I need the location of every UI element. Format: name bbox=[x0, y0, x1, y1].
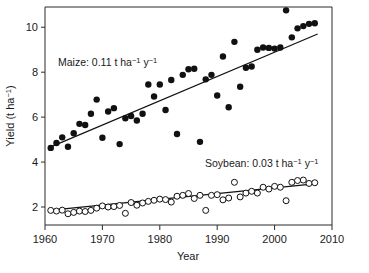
soybean-point bbox=[53, 208, 59, 214]
soybean-point bbox=[122, 210, 128, 216]
soybean-point bbox=[243, 190, 249, 196]
y-tick-label: 4 bbox=[32, 156, 38, 168]
soybean-point bbox=[254, 190, 260, 196]
soybean-point bbox=[306, 180, 312, 186]
maize-point bbox=[231, 39, 237, 45]
soybean-point bbox=[174, 193, 180, 199]
maize-point bbox=[208, 72, 214, 78]
soybean-point bbox=[88, 207, 94, 213]
x-axis-title: Year bbox=[177, 250, 200, 262]
yield-trend-figure: 246810 196019701980199020002010 Maize: 0… bbox=[0, 0, 369, 273]
maize-point bbox=[93, 96, 99, 102]
maize-point bbox=[312, 20, 318, 26]
x-tick-label: 1970 bbox=[90, 233, 114, 245]
maize-point bbox=[71, 130, 77, 136]
soybean-point bbox=[111, 204, 117, 210]
maize-point bbox=[191, 66, 197, 72]
soybean-point bbox=[140, 200, 146, 206]
maize-point bbox=[151, 93, 157, 99]
maize-point bbox=[260, 44, 266, 50]
maize-annotation-label: Maize: 0.11 t ha−1 y−1 bbox=[58, 56, 157, 68]
soybean-point bbox=[283, 198, 289, 204]
maize-point bbox=[134, 117, 140, 123]
y-tick-label: 6 bbox=[32, 111, 38, 123]
soybean-point bbox=[117, 202, 123, 208]
x-tick-label: 1990 bbox=[205, 233, 229, 245]
maize-point bbox=[254, 47, 260, 53]
maize-point bbox=[122, 115, 128, 121]
soybean-point bbox=[191, 195, 197, 201]
soybean-point bbox=[151, 197, 157, 203]
soybean-point bbox=[128, 200, 134, 206]
soybean-point bbox=[59, 207, 65, 213]
maize-point bbox=[294, 25, 300, 31]
soybean-point bbox=[272, 183, 278, 189]
soybean-point bbox=[99, 203, 105, 209]
maize-point bbox=[197, 139, 203, 145]
soybean-point bbox=[168, 199, 174, 205]
soybean-point bbox=[163, 197, 169, 203]
maize-point bbox=[76, 121, 82, 127]
maize-point bbox=[174, 131, 180, 137]
maize-point bbox=[180, 72, 186, 78]
maize-point bbox=[157, 81, 163, 87]
soybean-point bbox=[76, 208, 82, 214]
maize-point bbox=[203, 76, 209, 82]
soybean-point bbox=[312, 180, 318, 186]
maize-point bbox=[271, 45, 277, 51]
y-tick-label: 10 bbox=[26, 21, 38, 33]
maize-point bbox=[145, 81, 151, 87]
maize-point bbox=[300, 23, 306, 29]
soybean-point bbox=[226, 195, 232, 201]
maize-point bbox=[306, 21, 312, 27]
maize-point bbox=[225, 104, 231, 110]
soybean-point bbox=[266, 186, 272, 192]
maize-point bbox=[248, 63, 254, 69]
maize-point bbox=[266, 45, 272, 51]
maize-point bbox=[116, 141, 122, 147]
maize-point bbox=[289, 34, 295, 40]
soybean-point bbox=[220, 197, 226, 203]
x-tick-label: 2000 bbox=[262, 233, 286, 245]
soybean-point bbox=[186, 191, 192, 197]
maize-point bbox=[111, 105, 117, 111]
soybean-point bbox=[277, 184, 283, 190]
soybean-point bbox=[180, 192, 186, 198]
soybean-point bbox=[289, 179, 295, 185]
maize-point bbox=[243, 64, 249, 70]
soybean-point bbox=[260, 184, 266, 190]
maize-point bbox=[277, 44, 283, 50]
maize-point bbox=[162, 107, 168, 113]
maize-point bbox=[185, 66, 191, 72]
y-tick-label: 2 bbox=[32, 201, 38, 213]
x-tick-label: 2010 bbox=[320, 233, 344, 245]
soybean-point bbox=[65, 211, 71, 217]
maize-point bbox=[237, 84, 243, 90]
maize-point bbox=[128, 113, 134, 119]
soybean-point bbox=[197, 192, 203, 198]
soybean-point bbox=[237, 194, 243, 200]
maize-point bbox=[88, 111, 94, 117]
soybean-point bbox=[249, 188, 255, 194]
x-tick-label: 1980 bbox=[148, 233, 172, 245]
soybean-point bbox=[71, 209, 77, 215]
x-tick-label: 1960 bbox=[33, 233, 57, 245]
maize-point bbox=[105, 108, 111, 114]
soybean-point bbox=[157, 196, 163, 202]
maize-point bbox=[48, 145, 54, 151]
soybean-point bbox=[214, 192, 220, 198]
soybean-point bbox=[208, 192, 214, 198]
maize-point bbox=[214, 92, 220, 98]
soybean-point bbox=[145, 198, 151, 204]
maize-point bbox=[59, 134, 65, 140]
soybean-point bbox=[82, 209, 88, 215]
scatter-plot: 246810 196019701980199020002010 Maize: 0… bbox=[0, 0, 369, 273]
maize-point bbox=[53, 140, 59, 146]
maize-point bbox=[168, 77, 174, 83]
y-tick-label: 8 bbox=[32, 66, 38, 78]
soybean-point bbox=[295, 178, 301, 184]
maize-point bbox=[99, 135, 105, 141]
maize-point bbox=[139, 111, 145, 117]
soybean-point bbox=[105, 204, 111, 210]
soybean-point bbox=[300, 177, 306, 183]
